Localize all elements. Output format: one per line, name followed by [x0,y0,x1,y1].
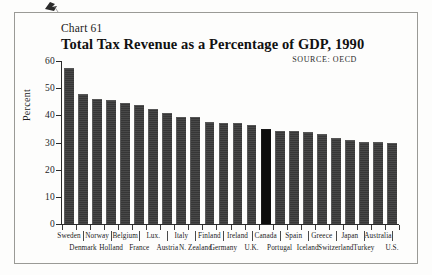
x-label-turkey: Turkey [353,244,374,252]
bar-denmark [78,94,88,224]
x-tick-mark [399,225,400,230]
bar-japan [345,140,355,224]
x-label-austria: Austria [156,244,178,252]
y-tick-label: 20 [45,165,55,175]
x-label-canada: Canada [255,232,277,240]
x-label-u-s: U.S. [385,244,398,252]
chart-frame: Chart 61 Total Tax Revenue as a Percenta… [14,12,418,264]
x-tick-mark [146,225,147,230]
bar-turkey [359,142,369,224]
x-label-italy: Italy [175,232,189,240]
x-label-n-zealand: N. Zealand [179,244,212,252]
bar-australia [373,142,383,224]
x-tick-mark [174,225,175,230]
x-label-separator [308,231,309,241]
x-tick-mark [371,225,372,230]
x-label-lux: Lux. [146,232,160,240]
x-label-finland: Finland [198,232,221,240]
x-label-separator [280,231,281,241]
bar-belgium [120,103,130,224]
y-tick-label: 0 [50,219,55,229]
x-label-iceland: Iceland [297,244,319,252]
x-label-separator [223,231,224,241]
x-label-separator [195,231,196,241]
x-label-separator [392,231,393,241]
x-label-japan: Japan [341,232,358,240]
x-tick-mark [160,225,161,230]
x-tick-mark [104,225,105,230]
x-label-separator [83,231,84,241]
x-label-separator [111,231,112,241]
x-label-separator [336,231,337,241]
bar-series [62,61,399,224]
bar-u-k [247,125,257,224]
x-label-germany: Germany [210,244,237,252]
x-tick-mark [118,225,119,230]
bar-finland [205,122,215,224]
y-tick-label: 60 [45,56,55,66]
x-label-separator [364,231,365,241]
x-tick-mark [202,225,203,230]
x-label-spain: Spain [285,232,302,240]
bar-italy [176,117,186,224]
x-label-france: France [129,244,149,252]
plot-area: Percent 0102030405060 SwedenDenmarkNorwa… [15,13,419,265]
x-label-separator [252,231,253,241]
page-canvas: Chart 61 Total Tax Revenue as a Percenta… [0,0,432,275]
x-label-sweden: Sweden [57,232,80,240]
x-label-denmark: Denmark [69,244,96,252]
x-tick-mark [231,225,232,230]
y-tick-label: 30 [45,138,55,148]
x-label-holland: Holland [99,244,123,252]
bar-n-zealand [190,117,200,224]
bar-holland [106,100,116,224]
bar-sweden [64,68,74,224]
x-label-belgium: Belgium [112,232,137,240]
bar-u-s [387,143,397,225]
x-tick-mark [259,225,260,230]
x-tick-mark [216,225,217,230]
x-tick-mark [76,225,77,230]
bar-iceland [303,132,313,224]
y-tick-label: 50 [45,83,55,93]
x-label-greece: Greece [311,232,332,240]
bar-portugal [275,131,285,224]
x-label-portugal: Portugal [267,244,292,252]
bar-ireland [233,123,243,224]
x-label-australia: Australia [364,232,391,240]
bar-france [134,105,144,224]
x-tick-mark [301,225,302,230]
x-tick-mark [245,225,246,230]
x-tick-mark [343,225,344,230]
x-label-norway: Norway [85,232,109,240]
x-tick-mark [357,225,358,230]
x-tick-mark [90,225,91,230]
x-label-separator [167,231,168,241]
y-tick-label: 10 [45,192,55,202]
x-label-separator [139,231,140,241]
x-tick-mark [132,225,133,230]
x-tick-mark [62,225,63,230]
bar-greece [317,134,327,224]
y-axis-ticks: 0102030405060 [31,61,61,224]
x-label-ireland: Ireland [227,232,248,240]
x-axis-labels: SwedenDenmarkNorwayHollandBelgiumFranceL… [15,231,419,265]
x-label-u-k: U.K. [244,244,258,252]
x-tick-mark [273,225,274,230]
x-tick-mark [385,225,386,230]
bar-austria [162,113,172,224]
bar-switzerland [331,138,341,224]
x-tick-mark [315,225,316,230]
x-tick-mark [287,225,288,230]
x-tick-mark [188,225,189,230]
bar-norway [92,99,102,224]
x-label-switzerland: Switzerland [318,244,353,252]
bar-germany [219,123,229,224]
x-tick-mark [329,225,330,230]
bar-spain [289,131,299,224]
bar-canada [261,129,271,224]
bar-lux [148,109,158,224]
y-tick-label: 40 [45,110,55,120]
